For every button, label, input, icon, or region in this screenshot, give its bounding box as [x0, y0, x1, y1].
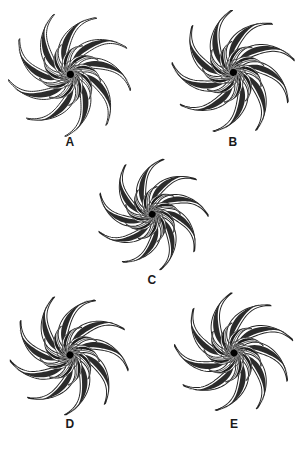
petal-group — [158, 0, 302, 147]
figure-label-a: A — [66, 136, 75, 148]
petal-group — [150, 270, 302, 435]
core-dot — [66, 70, 73, 77]
figure-label-c: C — [148, 274, 157, 286]
flower-graphic-d — [0, 283, 142, 427]
flower-graphic-e — [162, 281, 302, 425]
figure-sheet: ABCDE — [0, 0, 302, 452]
flower-graphic-b — [159, 0, 302, 146]
petal-group — [8, 14, 130, 136]
flower-graphic-c — [85, 147, 219, 281]
petal-group — [77, 140, 225, 288]
flower-graphic-a — [0, 0, 144, 148]
figure-label-b: B — [229, 136, 238, 148]
figure-label-d: D — [66, 418, 75, 430]
figure-label-e: E — [230, 418, 238, 430]
petal-group — [0, 272, 152, 438]
